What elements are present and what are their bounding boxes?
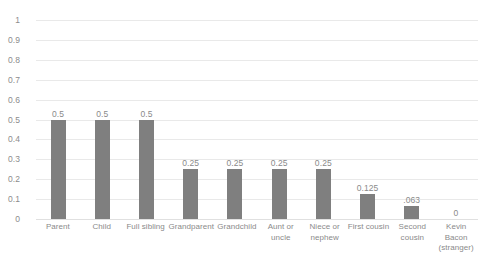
x-axis-category-label-line: Grandchild <box>216 222 258 233</box>
bar-value-label: 0.25 <box>213 158 257 168</box>
y-axis-tick-label: 0.1 <box>0 194 20 204</box>
bar[interactable] <box>404 206 419 219</box>
bar[interactable] <box>95 120 110 220</box>
bar-slot: 0 <box>434 20 478 219</box>
bar[interactable] <box>227 169 242 219</box>
y-axis-tick-label: 0.3 <box>0 154 20 164</box>
y-axis-tick-label: 1 <box>0 15 20 25</box>
bar-value-label: 0.25 <box>301 158 345 168</box>
x-axis-category-label-line: (stranger) <box>435 243 477 254</box>
x-axis-category-label-line: uncle <box>260 233 302 244</box>
y-axis-tick-label: 0 <box>0 214 20 224</box>
x-axis-category-label-line: Niece or <box>304 222 346 233</box>
y-axis-tick-label: 0.5 <box>0 115 20 125</box>
bar-value-label: .063 <box>390 195 434 205</box>
bar-value-label: 0.25 <box>169 158 213 168</box>
bar-value-label: 0.125 <box>345 183 389 193</box>
bar-slot: 0.5 <box>36 20 80 219</box>
x-axis-category-label: Secondcousin <box>390 222 434 254</box>
bar[interactable] <box>360 194 375 219</box>
x-axis-category-labels: ParentChildFull siblingGrandparentGrandc… <box>36 222 478 254</box>
bar-value-label: 0.5 <box>80 109 124 119</box>
bar-slot: 0.5 <box>124 20 168 219</box>
bar-slot: 0.25 <box>257 20 301 219</box>
gridline <box>36 219 478 220</box>
x-axis-category-label: Child <box>80 222 124 254</box>
y-axis-tick-label: 0.8 <box>0 55 20 65</box>
bar[interactable] <box>51 120 66 220</box>
bar[interactable] <box>139 120 154 220</box>
bar-series: 0.50.50.50.250.250.250.250.125.0630 <box>36 20 478 219</box>
bar-value-label: 0.5 <box>36 109 80 119</box>
bar-slot: .063 <box>390 20 434 219</box>
x-axis-category-label-line: nephew <box>304 233 346 244</box>
x-axis-category-label-line: Parent <box>37 222 79 233</box>
y-axis-tick-label: 0.7 <box>0 75 20 85</box>
y-axis-tick-label: 0.6 <box>0 95 20 105</box>
x-axis-category-label-line: Second <box>391 222 433 233</box>
plot-area: 00.10.20.30.40.50.60.70.80.91 0.50.50.50… <box>36 20 478 219</box>
x-axis-category-label: Full sibling <box>124 222 168 254</box>
bar-value-label: 0.25 <box>257 158 301 168</box>
bar-value-label: 0 <box>434 208 478 218</box>
bar[interactable] <box>183 169 198 219</box>
x-axis-category-label-line: Kevin Bacon <box>435 222 477 243</box>
x-axis-category-label-line: Aunt or <box>260 222 302 233</box>
bar[interactable] <box>316 169 331 219</box>
x-axis-category-label-line: cousin <box>391 233 433 244</box>
y-axis-tick-label: 0.4 <box>0 134 20 144</box>
bar-slot: 0.5 <box>80 20 124 219</box>
x-axis-category-label: Kevin Bacon(stranger) <box>434 222 478 254</box>
bar-slot: 0.25 <box>301 20 345 219</box>
bar[interactable] <box>272 169 287 219</box>
bar-slot: 0.125 <box>345 20 389 219</box>
x-axis-category-label-line: Child <box>81 222 123 233</box>
bar-value-label: 0.5 <box>124 109 168 119</box>
x-axis-category-label-line: Full sibling <box>125 222 167 233</box>
x-axis-category-label: First cousin <box>347 222 391 254</box>
y-axis-tick-label: 0.9 <box>0 35 20 45</box>
x-axis-category-label: Aunt oruncle <box>259 222 303 254</box>
x-axis-category-label: Niece ornephew <box>303 222 347 254</box>
x-axis-category-label: Grandparent <box>168 222 215 254</box>
x-axis-category-label-line: First cousin <box>348 222 390 233</box>
y-axis-tick-label: 0.2 <box>0 174 20 184</box>
bar-chart: 00.10.20.30.40.50.60.70.80.91 0.50.50.50… <box>0 0 490 259</box>
x-axis-category-label: Parent <box>36 222 80 254</box>
x-axis-category-label-line: Grandparent <box>169 222 214 233</box>
bar-slot: 0.25 <box>213 20 257 219</box>
x-axis-category-label: Grandchild <box>215 222 259 254</box>
bar-slot: 0.25 <box>169 20 213 219</box>
